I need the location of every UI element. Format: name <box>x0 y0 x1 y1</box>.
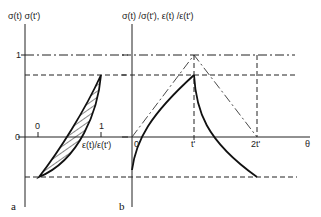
x-axis-label-a: ε(t)/ε(t') <box>82 141 111 150</box>
hysteresis-loop <box>39 75 101 177</box>
stress-loading-curve <box>132 75 194 170</box>
x-tick-2t1-b: 2t' <box>251 140 260 149</box>
x-tick-1-a: 1 <box>99 122 104 131</box>
y-axis-label-b: σ(t) /σ(t'), ε(t) /ε(t') <box>122 12 194 21</box>
panel-label-a: a <box>11 201 16 212</box>
panel-b <box>122 24 310 207</box>
y-tick-0-a: 0 <box>15 133 20 142</box>
x-tick-0-a: 0 <box>35 122 40 131</box>
x-tick-0-b: 0 <box>134 140 139 149</box>
figure-canvas <box>0 0 321 217</box>
stress-unloading-curve <box>194 75 257 177</box>
x-tick-t1-b: t' <box>191 140 195 149</box>
y-axis-label-a: σ(t) σ(t') <box>8 12 40 21</box>
y-tick-1-a: 1 <box>16 51 21 60</box>
panel-a <box>18 24 128 207</box>
x-axis-label-b: θ <box>305 140 310 149</box>
panel-label-b: b <box>119 201 125 212</box>
hysteresis-hatch <box>30 70 110 182</box>
